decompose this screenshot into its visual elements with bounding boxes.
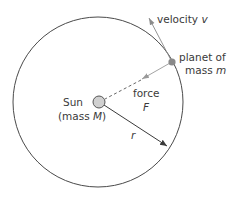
velocity-label: velocity v [157,13,208,25]
force-symbol: F [143,101,150,113]
radius-label: r [131,129,136,141]
radius-arrow [104,105,167,146]
sun-mass-label: (mass M) [58,110,106,122]
force-arrow [142,63,170,79]
orbit-diagram: velocity v planet of mass m force F Sun … [0,0,232,202]
sun-body [93,96,105,108]
velocity-symbol: v [201,13,208,25]
force-label: force [133,87,159,99]
sun-mass-symbol: M [93,110,102,122]
planet-mass-symbol: m [216,64,226,76]
sun-label: Sun [63,96,83,108]
planet-label-line1: planet of [179,51,226,63]
planet-body [168,58,175,65]
planet-label-line2: mass m [185,64,226,76]
